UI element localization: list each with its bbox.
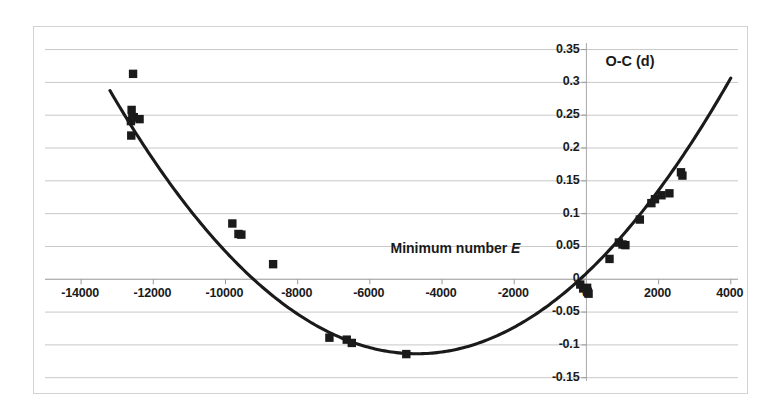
data-point-marker [127, 106, 135, 114]
data-point-marker [237, 230, 245, 238]
y-tick-label: 0.2 [537, 140, 579, 154]
x-axis-title-symbol: E [511, 240, 520, 256]
data-point-marker [621, 241, 629, 249]
x-tick-label: -8000 [281, 286, 312, 300]
x-tick-label: 4000 [716, 286, 743, 300]
data-point-marker [325, 333, 333, 341]
data-point-marker [636, 215, 644, 223]
x-tick-label: -6000 [353, 286, 384, 300]
data-point-marker [402, 350, 410, 358]
y-axis [581, 43, 586, 381]
y-tick-label: 0.3 [537, 74, 579, 88]
x-tick-label: -12000 [133, 286, 171, 300]
x-tick-label: -2000 [498, 286, 529, 300]
y-tick-label: 0.35 [537, 42, 579, 56]
data-point-marker [605, 255, 613, 263]
data-point-marker [665, 189, 673, 197]
data-point-marker [127, 131, 135, 139]
y-tick-label: -0.1 [537, 337, 579, 351]
x-axis [45, 279, 738, 284]
x-axis-title: Minimum number E [391, 240, 521, 256]
data-point-marker [678, 171, 686, 179]
y-tick-label: 0.15 [537, 173, 579, 187]
data-point-marker [269, 260, 277, 268]
data-point-marker [129, 70, 137, 78]
x-tick-label: -4000 [426, 286, 457, 300]
chart-frame [33, 26, 748, 394]
x-tick-label: 2000 [644, 286, 671, 300]
y-axis-title: O-C (d) [605, 53, 654, 69]
data-point-marker [135, 115, 143, 123]
y-tick-label: -0.15 [537, 370, 579, 384]
x-tick-label: 0 [582, 286, 589, 300]
y-tick-label: 0.05 [537, 238, 579, 252]
y-tick-label: 0 [537, 271, 579, 285]
chart-screenshot: -14000-12000-10000-8000-6000-4000-200002… [0, 0, 777, 417]
plot-area [34, 27, 747, 393]
data-point-marker [657, 191, 665, 199]
y-tick-label: -0.05 [537, 304, 579, 318]
x-tick-label: -14000 [61, 286, 99, 300]
y-tick-label: 0.1 [537, 206, 579, 220]
gridlines [45, 50, 738, 378]
data-point-marker [348, 339, 356, 347]
x-tick-label: -10000 [206, 286, 244, 300]
y-tick-label: 0.25 [537, 107, 579, 121]
data-point-marker [228, 219, 236, 227]
